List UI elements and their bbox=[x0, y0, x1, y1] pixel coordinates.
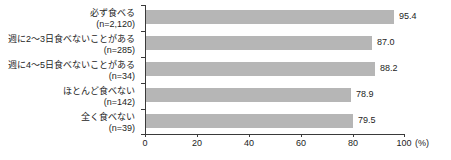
x-axis-tick bbox=[249, 134, 250, 137]
x-axis-tick bbox=[353, 134, 354, 137]
bar bbox=[146, 114, 353, 128]
category-label-line2: (n=39) bbox=[0, 123, 135, 134]
bar-value-label: 78.9 bbox=[356, 89, 374, 100]
x-axis-tick bbox=[145, 134, 146, 137]
category-label-line2: (n=34) bbox=[0, 71, 135, 82]
category-tick bbox=[141, 109, 145, 110]
x-axis-unit-label: (%) bbox=[415, 138, 429, 149]
bar-value-label: 87.0 bbox=[377, 37, 395, 48]
x-axis-tick-label: 0 bbox=[142, 138, 147, 149]
category-tick bbox=[141, 83, 145, 84]
category-label-line1: 週に2～3日食べないことがある bbox=[0, 34, 135, 45]
x-axis-tick-label: 40 bbox=[244, 138, 254, 149]
category-label: ほとんど食べない (n=142) bbox=[0, 86, 139, 108]
x-axis-tick bbox=[197, 134, 198, 137]
category-label-line2: (n=285) bbox=[0, 45, 135, 56]
x-axis-tick-label: 60 bbox=[296, 138, 306, 149]
x-axis-tick bbox=[301, 134, 302, 137]
plot-area: 95.4 87.0 88.2 78.9 79.5 0 20 40 60 80 1… bbox=[145, 5, 405, 134]
bar bbox=[146, 62, 375, 76]
category-label: 週に4～5日食べないことがある (n=34) bbox=[0, 60, 139, 82]
category-label-line1: 必ず食べる bbox=[0, 8, 135, 19]
x-axis-tick-label: 20 bbox=[192, 138, 202, 149]
category-tick bbox=[141, 31, 145, 32]
bar bbox=[146, 10, 394, 24]
category-label: 必ず食べる (n=2,120) bbox=[0, 8, 139, 30]
bar-value-label: 88.2 bbox=[380, 63, 398, 74]
category-tick bbox=[141, 57, 145, 58]
bar-value-label: 79.5 bbox=[358, 115, 376, 126]
category-label: 全く食べない (n=39) bbox=[0, 112, 139, 134]
horizontal-bar-chart: 必ず食べる (n=2,120) 週に2～3日食べないことがある (n=285) … bbox=[0, 0, 451, 160]
category-tick bbox=[141, 5, 145, 6]
bar bbox=[146, 36, 372, 50]
x-axis-tick-label: 80 bbox=[348, 138, 358, 149]
category-label-line2: (n=2,120) bbox=[0, 19, 135, 30]
x-axis-tick bbox=[404, 134, 405, 137]
category-label-line1: ほとんど食べない bbox=[0, 86, 135, 97]
category-label-line2: (n=142) bbox=[0, 97, 135, 108]
category-label-line1: 週に4～5日食べないことがある bbox=[0, 60, 135, 71]
category-label-line1: 全く食べない bbox=[0, 112, 135, 123]
x-axis-tick-label: 100 bbox=[396, 138, 411, 149]
category-label-column: 必ず食べる (n=2,120) 週に2～3日食べないことがある (n=285) … bbox=[0, 0, 139, 134]
bar-value-label: 95.4 bbox=[399, 11, 417, 22]
bar bbox=[146, 88, 351, 102]
category-label: 週に2～3日食べないことがある (n=285) bbox=[0, 34, 139, 56]
category-axis-line bbox=[145, 134, 405, 135]
